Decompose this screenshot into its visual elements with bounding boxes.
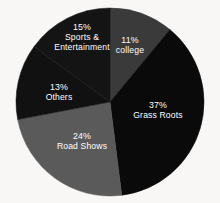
pie-slice-name: Others xyxy=(46,92,73,102)
pie-slice-name: Grass Roots xyxy=(133,110,182,120)
pie-slice-name: college xyxy=(116,45,144,55)
pie-slice-name: Entertainment xyxy=(54,42,110,52)
pie-slice-percent: 24% xyxy=(73,131,91,141)
pie-slice-percent: 37% xyxy=(149,100,167,110)
pie-chart-figure: 11%college37%Grass Roots24%Road Shows13%… xyxy=(0,0,220,203)
pie-slice-name: Road Shows xyxy=(57,141,107,151)
pie-slice-group xyxy=(16,8,204,196)
pie-slice-percent: 11% xyxy=(121,35,138,45)
pie-chart-svg: 11%college37%Grass Roots24%Road Shows13%… xyxy=(0,0,220,203)
pie-slice-name: Sports & xyxy=(65,32,99,42)
pie-slice-percent: 13% xyxy=(50,82,68,92)
pie-slice-percent: 15% xyxy=(73,22,91,32)
